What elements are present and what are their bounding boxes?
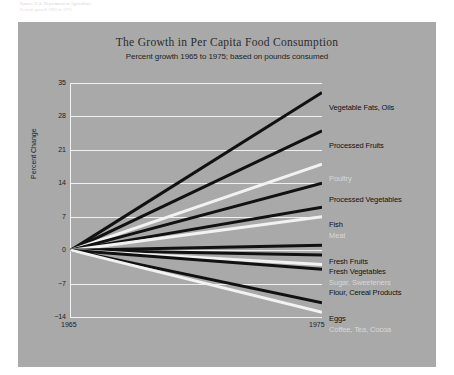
series-label: Fresh Fruits <box>329 257 368 266</box>
series-label: Eggs <box>329 314 346 323</box>
source-note: Source: U.S. Department of Agriculture P… <box>20 1 91 12</box>
source-note-line1: Source: U.S. Department of Agriculture <box>20 1 91 6</box>
y-axis-tick: 35 <box>26 79 66 86</box>
series-label: Fresh Vegetables <box>329 267 386 276</box>
series-lines <box>70 83 322 317</box>
chart-subtitle: Percent growth 1965 to 1975; based on po… <box>18 52 436 61</box>
y-axis-tick: 0 <box>26 246 66 253</box>
y-axis-tick: 14 <box>26 179 66 186</box>
series-label: Meat <box>329 231 345 240</box>
chart-panel: The Growth in Per Capita Food Consumptio… <box>18 22 436 367</box>
y-axis-tick: −14 <box>26 313 66 320</box>
series-label: Vegetable Fats, Oils <box>329 103 394 112</box>
gridline <box>70 317 322 318</box>
series-label: Poultry <box>329 174 352 183</box>
series-label: Flour, Cereal Products <box>329 288 401 297</box>
series-label: Fish <box>329 220 343 229</box>
series-line <box>71 164 322 250</box>
chart-title: The Growth in Per Capita Food Consumptio… <box>18 36 436 48</box>
y-axis-tick: 7 <box>26 213 66 220</box>
series-label: Sugar, Sweeteners <box>329 278 391 287</box>
source-note-line2: Percent growth 1965 to 1975 <box>20 7 91 12</box>
series-line <box>71 183 322 250</box>
series-label: Coffee, Tea, Cocoa <box>329 325 391 334</box>
series-label: Processed Fruits <box>329 141 384 150</box>
plot-area: 3528211470−7−14 Percent Change 1965 1975 <box>70 83 322 317</box>
series-line <box>71 93 322 251</box>
y-axis-tick: 28 <box>26 112 66 119</box>
series-label: Processed Vegetables <box>329 195 402 204</box>
y-axis-label: Percent Change <box>30 128 37 179</box>
x-axis-tick-start: 1965 <box>61 321 77 328</box>
y-axis-tick: −7 <box>26 280 66 287</box>
x-axis-tick-end: 1975 <box>309 321 325 328</box>
